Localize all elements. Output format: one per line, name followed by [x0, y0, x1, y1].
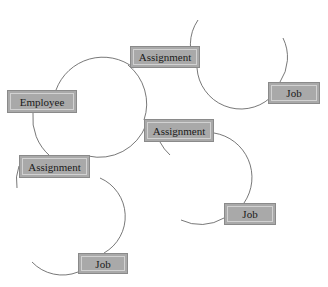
entity-job-middle-right[interactable]: Job — [224, 203, 276, 225]
entity-job-bottom[interactable]: Job — [78, 253, 128, 274]
entity-label: Job — [95, 258, 110, 270]
entity-label: Employee — [20, 96, 65, 108]
entity-label: Assignment — [139, 51, 192, 63]
entity-job-top-right[interactable]: Job — [268, 82, 320, 104]
entity-employee[interactable]: Employee — [7, 90, 77, 113]
entity-label: Job — [242, 208, 257, 220]
entity-assignment-top[interactable]: Assignment — [130, 46, 200, 68]
diagram-canvas: Employee Assignment Assignment Assignmen… — [0, 0, 328, 287]
edge-layer — [0, 0, 328, 287]
entity-assignment-left[interactable]: Assignment — [19, 155, 90, 178]
entity-label: Assignment — [153, 125, 206, 137]
entity-label: Job — [286, 87, 301, 99]
entity-label: Assignment — [28, 161, 81, 173]
entity-assignment-middle[interactable]: Assignment — [144, 119, 214, 142]
